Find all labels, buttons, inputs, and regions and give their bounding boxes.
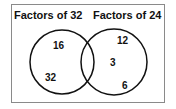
value-16: 16 [53, 40, 64, 51]
value-6: 6 [122, 80, 128, 91]
left-set-label: Factors of 32 [14, 9, 82, 21]
value-32: 32 [45, 72, 56, 83]
value-12: 12 [117, 35, 128, 46]
value-3: 3 [110, 57, 116, 68]
right-set-label: Factors of 24 [93, 9, 161, 21]
